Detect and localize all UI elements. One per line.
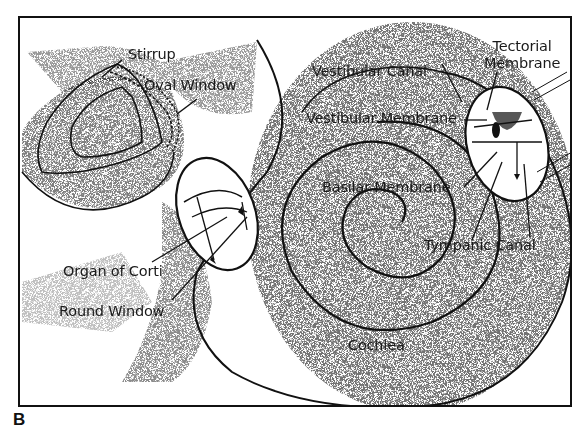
stipple-shading (22, 22, 572, 407)
figure-letter: B (13, 410, 25, 430)
label-vestibular-canal: Vestibular Canal (312, 64, 427, 79)
label-tympanic-canal: Tympanic Canal (424, 238, 536, 253)
diagram-frame: Stirrup Oval Window Vestibular Canal Tec… (18, 16, 572, 407)
label-tectorial-membrane: Tectorial Membrane (484, 38, 560, 71)
label-tectorial-line1: Tectorial (493, 38, 552, 54)
label-cochlea: Cochlea (348, 338, 405, 353)
label-vestibular-membrane: Vestibular Membrane (306, 111, 457, 126)
label-round-window: Round Window (59, 304, 164, 319)
cochlea-illustration (20, 18, 572, 407)
label-oval-window: Oval Window (144, 78, 237, 93)
label-tectorial-line2: Membrane (484, 55, 560, 71)
label-basilar-membrane: Basilar Membrane (322, 180, 450, 195)
label-organ-of-corti: Organ of Corti (63, 264, 162, 279)
label-stirrup: Stirrup (128, 47, 176, 62)
